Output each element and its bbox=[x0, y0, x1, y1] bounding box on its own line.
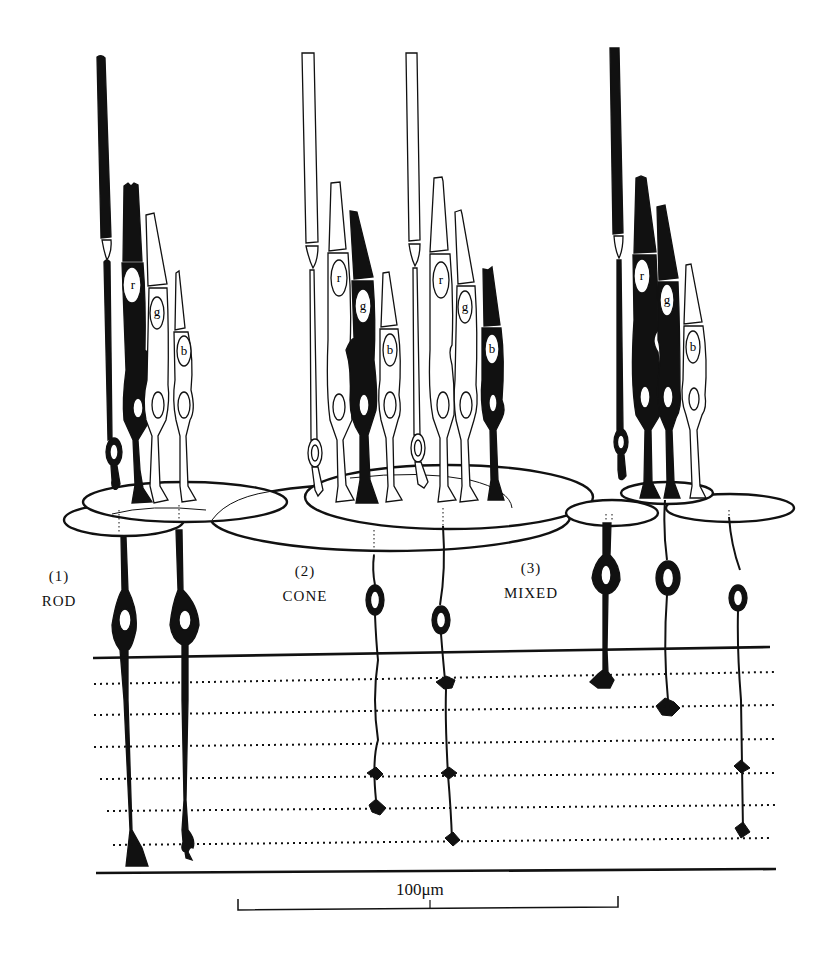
label-group-cone: (2) CONE bbox=[277, 563, 333, 605]
rod-outer-segment bbox=[97, 56, 111, 238]
photoreceptors-group-mixed: r g b bbox=[610, 48, 706, 498]
bipolar-cells bbox=[112, 500, 750, 866]
horizontal-disc-mixed-left bbox=[566, 500, 658, 526]
ipl-stratum-1 bbox=[94, 672, 775, 684]
label-group-cone-name: CONE bbox=[277, 588, 333, 605]
horizontal-cells bbox=[64, 465, 794, 551]
ipl-stratum-4 bbox=[100, 773, 775, 779]
rod-outer-segment-2b bbox=[406, 53, 420, 241]
ipl-stratum-5 bbox=[107, 805, 775, 811]
photoreceptors-group-cone: r g b r g b bbox=[302, 53, 504, 503]
cone-letter-g: g bbox=[664, 292, 671, 307]
cone-letter-r: r bbox=[640, 268, 645, 283]
ipl-bottom-border bbox=[96, 869, 776, 873]
cone-outer-segment-b bbox=[175, 271, 185, 330]
ipl-top-border bbox=[93, 647, 770, 658]
cone-letter-b: b bbox=[489, 341, 496, 356]
cone-letter-g: g bbox=[360, 298, 367, 313]
scale-bar-label: 100μm bbox=[396, 880, 444, 900]
cone-letter-r: r bbox=[439, 272, 444, 287]
cone-letter-b: b bbox=[690, 339, 697, 354]
ipl-stratum-3 bbox=[94, 739, 775, 747]
cone-letter-b: b bbox=[181, 343, 188, 358]
label-group-rod-name: ROD bbox=[36, 593, 82, 610]
label-group-mixed: (3) MIXED bbox=[494, 560, 568, 602]
ipl-stratum-6 bbox=[113, 838, 770, 845]
cone-outer-segment-g bbox=[146, 213, 167, 286]
label-group-cone-number: (2) bbox=[277, 563, 333, 580]
label-group-mixed-number: (3) bbox=[494, 560, 568, 577]
label-group-rod-number: (1) bbox=[36, 568, 82, 585]
retina-diagram: .ink { fill:#111; stroke:#111; } .out { … bbox=[0, 0, 833, 953]
cone-letter-g: g bbox=[462, 299, 469, 314]
rod-outer-segment-2a bbox=[302, 53, 318, 243]
label-group-rod: (1) ROD bbox=[36, 568, 82, 610]
cone-outer-segment-r bbox=[123, 183, 142, 261]
cone-letter-r: r bbox=[337, 270, 342, 285]
photoreceptors-group-rod: r g b bbox=[97, 56, 196, 503]
cone-letter-b: b bbox=[387, 342, 394, 357]
rod-inner-segment bbox=[102, 240, 111, 260]
cone-letter-g: g bbox=[154, 304, 161, 319]
label-group-mixed-name: MIXED bbox=[494, 585, 568, 602]
inner-plexiform-layer bbox=[93, 647, 776, 873]
cone-letter-r: r bbox=[131, 277, 136, 292]
